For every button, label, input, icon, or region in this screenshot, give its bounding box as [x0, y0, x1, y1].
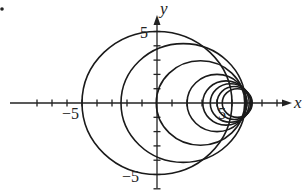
x-axis-label: x: [293, 93, 302, 112]
x-tick-label-5: 5: [218, 105, 226, 122]
y-tick-label-5: 5: [140, 24, 148, 41]
corner-dot: [0, 7, 4, 11]
circle-family-diagram: x y −5 5 5 −5: [0, 0, 307, 194]
x-axis: [10, 100, 285, 107]
y-axis-label: y: [158, 0, 168, 18]
y-tick-label-neg5: −5: [122, 168, 139, 185]
x-axis-arrow-icon: [282, 100, 292, 107]
x-tick-label-neg5: −5: [62, 105, 79, 122]
